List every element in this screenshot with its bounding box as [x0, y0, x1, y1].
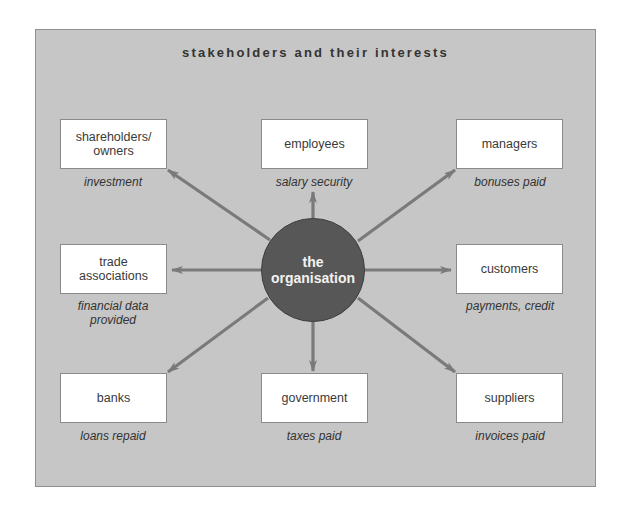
stakeholder-box-shareholders: shareholders/ owners	[60, 119, 167, 169]
stakeholder-name: managers	[482, 137, 538, 151]
stakeholder-name: government	[281, 391, 347, 405]
stakeholder-box-employees: employees	[261, 119, 368, 169]
interest-invoices-paid: invoices paid	[440, 429, 580, 443]
organisation-hub: the organisation	[261, 218, 365, 322]
stakeholder-box-banks: banks	[60, 373, 167, 423]
stakeholder-name: customers	[481, 262, 539, 276]
stakeholder-name: employees	[284, 137, 344, 151]
interest-financial-data: financial data provided	[43, 299, 183, 327]
interest-loans-repaid: loans repaid	[43, 429, 183, 443]
interest-taxes-paid: taxes paid	[244, 429, 384, 443]
stakeholder-name: trade associations	[79, 255, 148, 283]
interest-investment: investment	[43, 175, 183, 189]
stakeholder-name: shareholders/ owners	[76, 130, 152, 158]
interest-bonuses-paid: bonuses paid	[440, 175, 580, 189]
stakeholder-name: suppliers	[484, 391, 534, 405]
stakeholder-name: banks	[97, 391, 130, 405]
arrow-to-banks	[168, 298, 268, 372]
stakeholder-box-trade-associations: trade associations	[60, 244, 167, 294]
interest-salary-security: salary security	[244, 175, 384, 189]
hub-label: the organisation	[271, 254, 355, 286]
interest-payments-credit: payments, credit	[440, 299, 580, 313]
stakeholder-box-government: government	[261, 373, 368, 423]
stakeholder-box-suppliers: suppliers	[456, 373, 563, 423]
stakeholder-box-managers: managers	[456, 119, 563, 169]
stakeholder-box-customers: customers	[456, 244, 563, 294]
